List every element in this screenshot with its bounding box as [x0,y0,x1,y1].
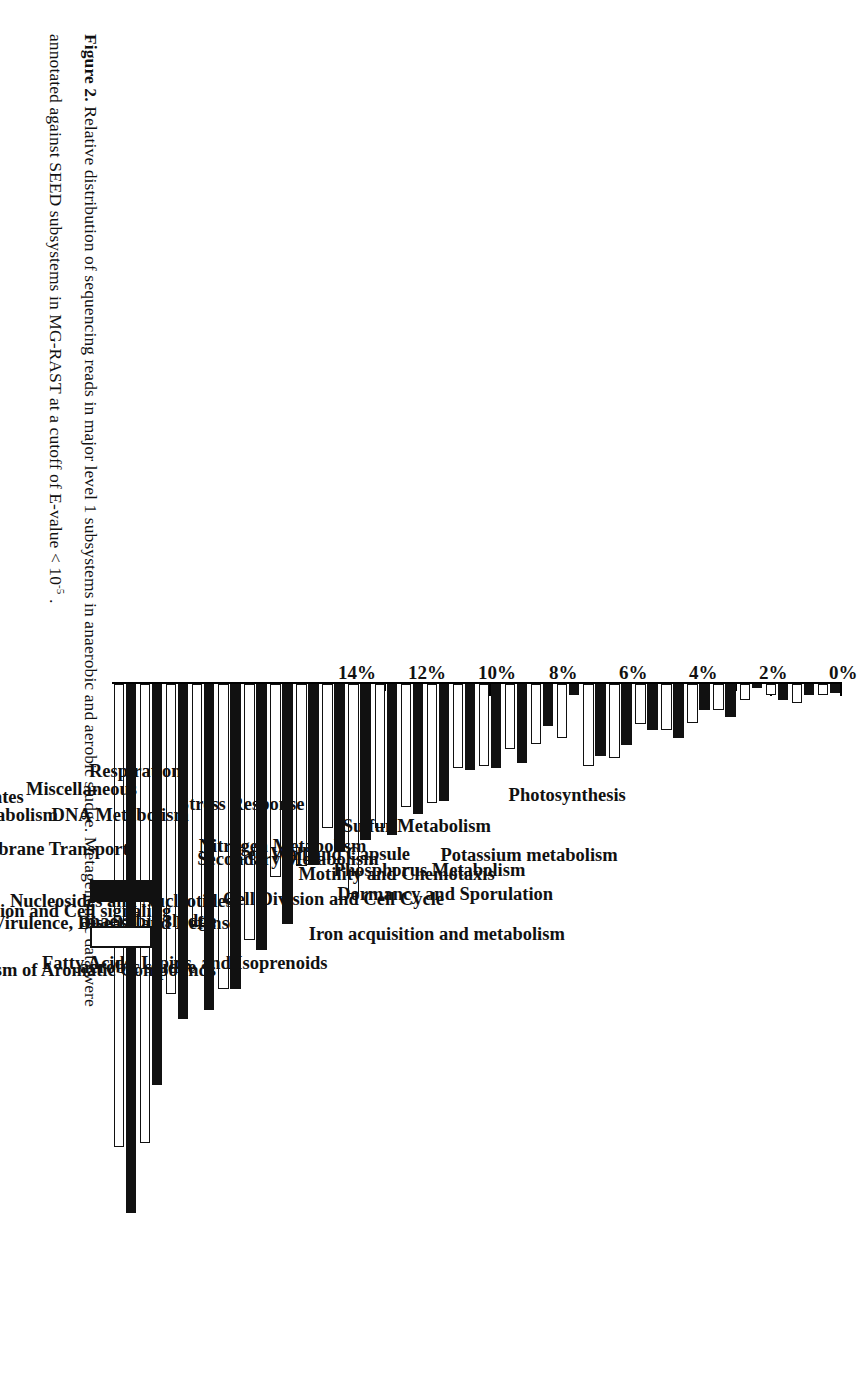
bar-anaerobic[interactable] [699,684,709,710]
bar-group [712,684,738,1194]
bar-group [764,684,790,1194]
bar-anaerobic[interactable] [387,684,397,835]
bar-aerobic[interactable] [505,684,515,749]
bar-anaerobic[interactable] [752,684,762,688]
category-label: Sulfur Metabolism [342,816,490,837]
bar-group [581,684,607,1194]
legend-swatch-aerobic [90,926,152,948]
bar-aerobic[interactable] [661,684,671,730]
category-label: Iron acquisition and metabolism [309,924,565,945]
bar-group [268,684,294,1194]
bar-aerobic[interactable] [740,684,750,700]
bar-anaerobic[interactable] [413,684,423,814]
bar-aerobic[interactable] [557,684,567,738]
axis-tick-label: 8% [549,662,578,684]
bar-aerobic[interactable] [166,684,176,994]
axis-tick-label: 14% [338,662,376,684]
bar-aerobic[interactable] [609,684,619,758]
bar-aerobic[interactable] [766,684,776,695]
legend-label: aerobic sludge [80,956,196,978]
bar-group [686,684,712,1194]
category-label: Miscellaneous [26,779,137,800]
bar-anaerobic[interactable] [517,684,527,763]
bar-anaerobic[interactable] [491,684,501,768]
bar-group [190,684,216,1194]
bar-anaerobic[interactable] [543,684,553,726]
bar-aerobic[interactable] [401,684,411,807]
bar-anaerobic[interactable] [465,684,475,770]
bar-anaerobic[interactable] [673,684,683,738]
bar-anaerobic[interactable] [830,684,840,693]
bar-anaerobic[interactable] [256,684,266,950]
bar-group [242,684,268,1194]
bar-anaerobic[interactable] [569,684,579,695]
category-label: Cell Division and Cell Cycle [223,889,444,910]
bar-anaerobic[interactable] [804,684,814,695]
bar-aerobic[interactable] [531,684,541,744]
category-label: Nitrogen Metabolism [199,836,367,857]
axis-tick-label: 12% [408,662,446,684]
bar-group [633,684,659,1194]
legend-entry[interactable]: aerobic sludge [90,926,152,948]
bar-group [738,684,764,1194]
axis-tick-label: 10% [479,662,517,684]
bar-group [660,684,686,1194]
axis-tick-label: 0% [829,662,858,684]
bar-chart-plot: 0%2%4%6%8%10%12%14% Iron acquisition and… [112,682,842,1192]
bar-aerobic[interactable] [713,684,723,710]
bar-aerobic[interactable] [375,684,385,828]
bar-anaerobic[interactable] [647,684,657,730]
category-label: Carbohydrates [0,787,24,808]
bar-aerobic[interactable] [792,684,802,703]
bar-aerobic[interactable] [583,684,593,766]
bar-group [216,684,242,1194]
bar-aerobic[interactable] [687,684,697,723]
bar-aerobic[interactable] [818,684,828,695]
category-label: Photosynthesis [509,785,626,806]
bar-aerobic[interactable] [635,684,645,724]
category-label: Stress Response [179,794,305,815]
axis-tick-label: 4% [689,662,718,684]
axis-tick-label: 6% [619,662,648,684]
category-label: DNA Metabolism [51,805,188,826]
bar-aerobic[interactable] [453,684,463,768]
bar-aerobic[interactable] [427,684,437,803]
bar-anaerobic[interactable] [778,684,788,700]
bar-group [816,684,842,1194]
legend-swatch-anaerobic [90,880,152,902]
bar-group [607,684,633,1194]
bar-anaerobic[interactable] [439,684,449,801]
category-label: Membrane Transport [0,839,128,860]
bar-group [790,684,816,1194]
bar-anaerobic[interactable] [152,684,162,1085]
category-label: RNA Metabolism [0,805,58,826]
bar-anaerobic[interactable] [725,684,735,717]
bar-aerobic[interactable] [322,684,332,828]
bar-aerobic[interactable] [479,684,489,766]
axis-tick-label: 2% [759,662,788,684]
bar-anaerobic[interactable] [595,684,605,756]
bar-anaerobic[interactable] [621,684,631,745]
legend-entry[interactable]: anaerobic sludge [90,880,152,902]
